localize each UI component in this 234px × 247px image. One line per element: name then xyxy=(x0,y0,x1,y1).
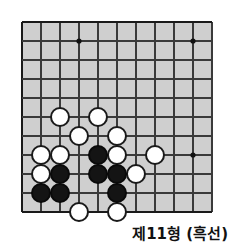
white-stone[interactable] xyxy=(31,145,51,165)
diagram-root: 제11형 (흑선) xyxy=(0,0,234,247)
black-stone[interactable] xyxy=(88,164,108,184)
white-stone[interactable] xyxy=(88,107,108,127)
go-board[interactable] xyxy=(22,22,212,212)
black-stone[interactable] xyxy=(107,183,127,203)
white-stone[interactable] xyxy=(69,126,89,146)
stones-layer xyxy=(0,0,234,247)
white-stone[interactable] xyxy=(145,145,165,165)
diagram-caption: 제11형 (흑선) xyxy=(132,222,228,243)
black-stone[interactable] xyxy=(88,145,108,165)
white-stone[interactable] xyxy=(50,107,70,127)
white-stone[interactable] xyxy=(107,126,127,146)
white-stone[interactable] xyxy=(126,164,146,184)
black-stone[interactable] xyxy=(31,183,51,203)
white-stone[interactable] xyxy=(107,145,127,165)
white-stone[interactable] xyxy=(50,145,70,165)
white-stone[interactable] xyxy=(69,202,89,222)
black-stone[interactable] xyxy=(107,164,127,184)
black-stone[interactable] xyxy=(50,183,70,203)
black-stone[interactable] xyxy=(50,164,70,184)
white-stone[interactable] xyxy=(107,202,127,222)
white-stone[interactable] xyxy=(31,164,51,184)
